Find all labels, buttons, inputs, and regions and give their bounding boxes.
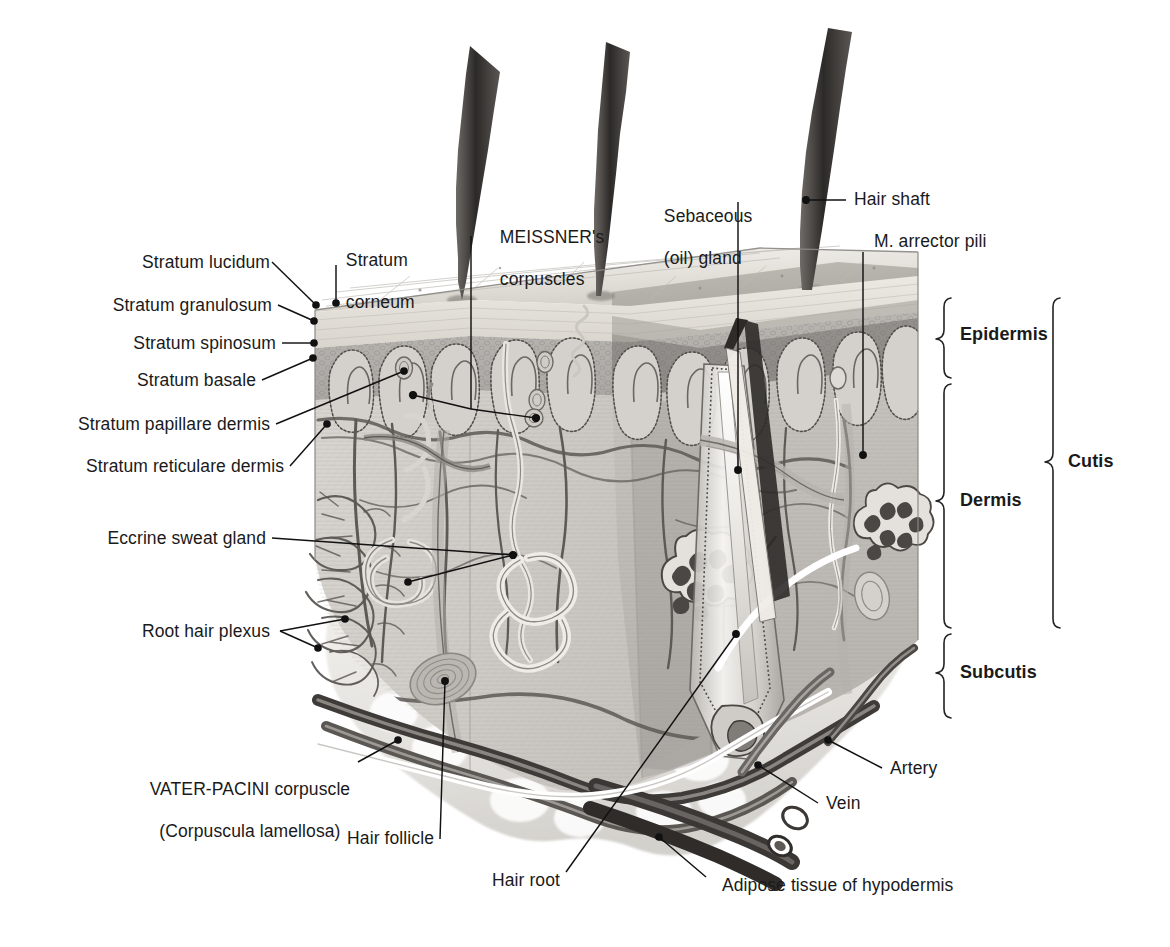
- leader-stratum-papillare-dermis: [276, 368, 407, 424]
- leader-stratum-spinosum: [282, 340, 317, 346]
- leader-hair-shaft: [803, 197, 846, 203]
- leader-stratum-lucidum: [272, 262, 319, 308]
- figure-canvas: Stratum lucidum Stratum granulosum Strat…: [0, 0, 1170, 947]
- label-stratum-corneum-line2: corneum: [346, 292, 415, 312]
- label-hair-follicle: Hair follicle: [300, 828, 434, 849]
- label-meissners-corpuscles-line2: corpuscles: [500, 269, 585, 289]
- leader-stratum-basale: [262, 355, 316, 380]
- bracket-epidermis: [936, 298, 951, 378]
- label-stratum-lucidum: Stratum lucidum: [24, 252, 270, 273]
- label-stratum-reticulare-dermis: Stratum reticulare dermis: [2, 456, 284, 477]
- label-sebaceous-gland-line1: Sebaceous: [664, 206, 752, 226]
- label-epidermis: Epidermis: [960, 324, 1080, 345]
- label-stratum-papillare-dermis: Stratum papillare dermis: [6, 414, 270, 435]
- label-adipose-tissue: Adipose tissue of hypodermis: [722, 875, 1022, 896]
- bracket-subcutis: [936, 634, 951, 718]
- label-subcutis: Subcutis: [960, 662, 1080, 683]
- leader-stratum-reticulare-dermis: [290, 421, 330, 466]
- leader-stratum-granulosum: [278, 305, 317, 324]
- bracket-dermis: [936, 384, 951, 628]
- label-hair-root: Hair root: [440, 870, 560, 891]
- leader-hair-root: [566, 631, 739, 872]
- label-sebaceous-oil-gland: Sebaceous (oil) gland: [644, 185, 774, 290]
- leader-hair-follicle: [440, 678, 448, 839]
- label-meissners-corpuscles-line1: MEISSNER's: [500, 227, 605, 247]
- label-stratum-granulosum: Stratum granulosum: [10, 295, 272, 316]
- label-cutis: Cutis: [1068, 451, 1158, 472]
- label-artery: Artery: [890, 758, 990, 779]
- label-vater-pacini-line1: VATER-PACINI corpuscle: [150, 779, 351, 799]
- label-hair-shaft: Hair shaft: [854, 189, 984, 210]
- label-eccrine-sweat-gland: Eccrine sweat gland: [40, 528, 266, 549]
- leader-eccrine-sweat-gland: [272, 538, 516, 585]
- label-sebaceous-gland-line2: (oil) gland: [664, 248, 742, 268]
- label-m-arrector-pili: M. arrector pili: [874, 231, 1034, 252]
- leader-vein: [755, 762, 818, 803]
- label-root-hair-plexus: Root hair plexus: [62, 621, 270, 642]
- label-stratum-corneum: Stratum corneum: [326, 229, 446, 334]
- label-vein: Vein: [826, 793, 926, 814]
- leader-artery: [825, 737, 882, 768]
- leader-adipose-tissue: [656, 834, 706, 877]
- label-dermis: Dermis: [960, 490, 1080, 511]
- label-meissners-corpuscles: MEISSNER's corpuscles: [480, 206, 630, 311]
- label-stratum-basale: Stratum basale: [50, 370, 256, 391]
- leader-root-hair-plexus: [280, 616, 348, 651]
- leader-m-arrector-pili: [860, 252, 866, 458]
- bracket-cutis: [1045, 298, 1060, 628]
- leader-vater-pacini-corpuscle: [358, 737, 401, 762]
- label-stratum-spinosum: Stratum spinosum: [30, 333, 276, 354]
- label-stratum-corneum-line1: Stratum: [346, 250, 408, 270]
